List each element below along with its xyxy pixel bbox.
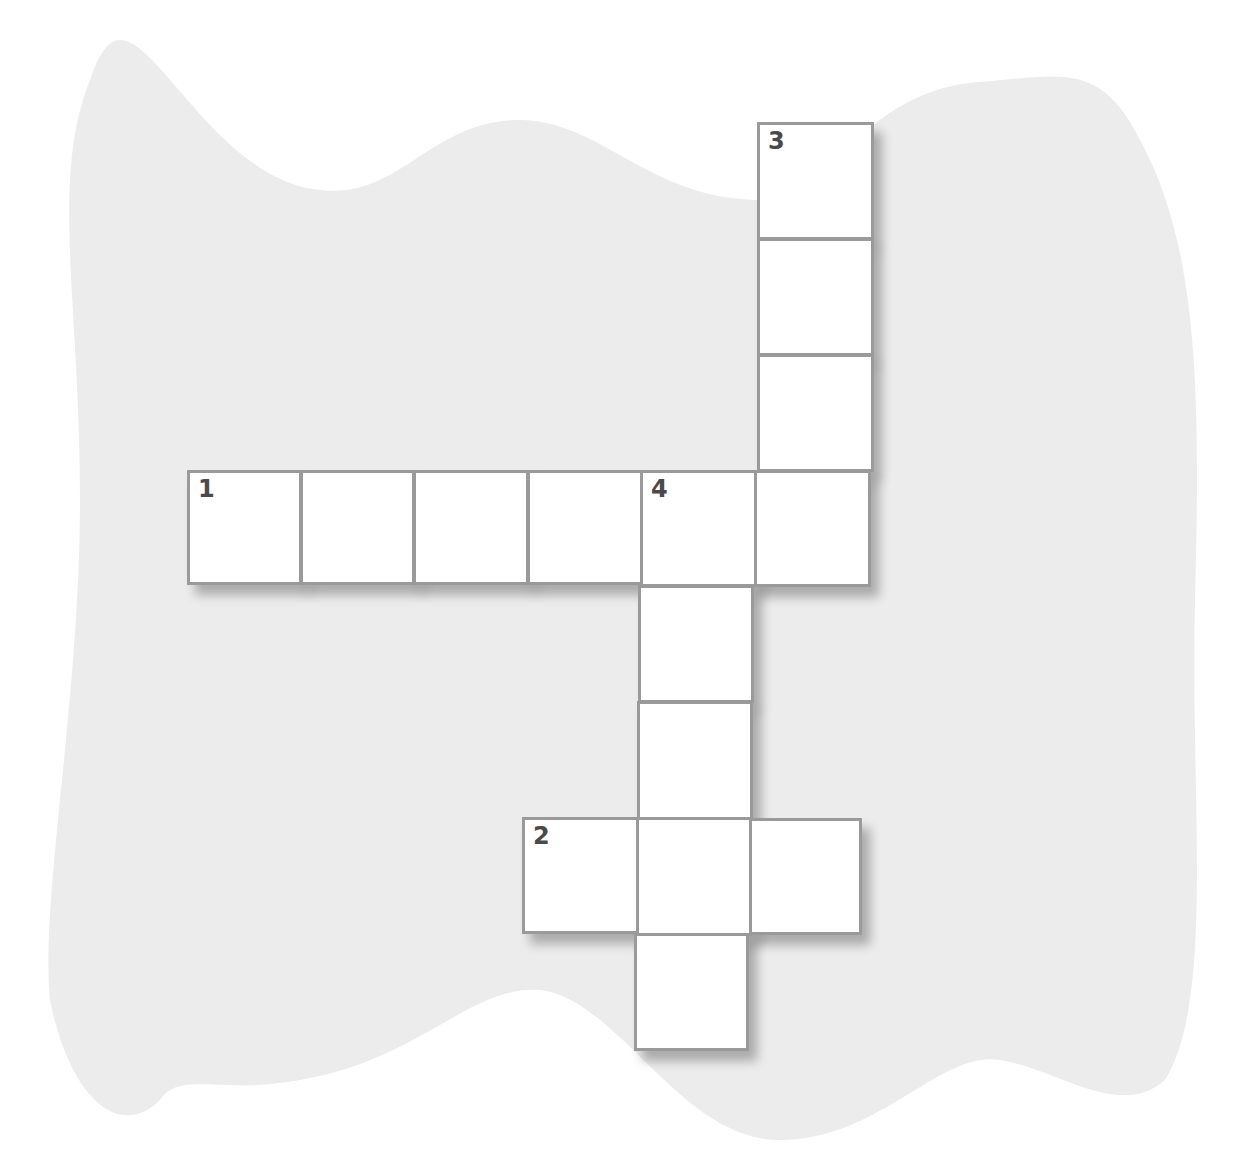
cell-overlay: [757, 354, 874, 472]
cell-overlay: 2: [522, 817, 639, 934]
cell-overlay: [413, 470, 529, 585]
clue-number-3: 3: [768, 129, 785, 153]
cell-overlay: 1: [187, 470, 302, 585]
clue-number-2: 2: [533, 824, 550, 848]
cell-overlay: [757, 238, 874, 356]
cell-overlay: [749, 818, 862, 935]
cell-overlay: [634, 933, 749, 1051]
cell-overlay: [638, 585, 754, 703]
cell-overlay: [300, 470, 415, 585]
cell-overlay: 4: [640, 470, 757, 587]
cell-overlay: [636, 817, 752, 936]
cell-overlay: [754, 470, 871, 587]
cell-overlay: [527, 470, 643, 585]
wavy-background: [48, 40, 1197, 1140]
puzzle-background-shape: [0, 0, 1246, 1171]
clue-number-4: 4: [651, 477, 668, 501]
cell-overlay: 3: [757, 122, 874, 240]
cell-overlay: [637, 701, 753, 820]
clue-number-1: 1: [198, 477, 215, 501]
